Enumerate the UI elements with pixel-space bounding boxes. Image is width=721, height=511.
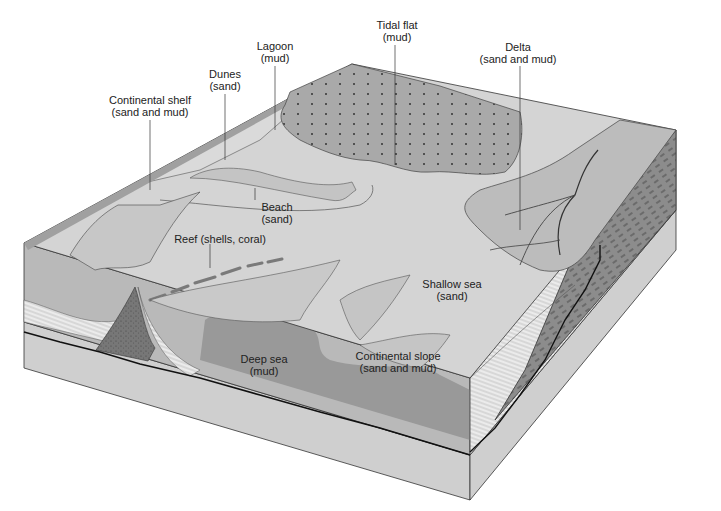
- label-shallow-sea: Shallow sea (sand): [422, 278, 481, 302]
- label-lagoon: Lagoon (mud): [257, 40, 294, 64]
- label-tidal-flat: Tidal flat (mud): [376, 19, 417, 43]
- label-deep-sea: Deep sea (mud): [240, 353, 287, 377]
- label-continental-shelf: Continental shelf (sand and mud): [109, 94, 191, 118]
- label-delta: Delta (sand and mud): [479, 41, 556, 65]
- label-beach: Beach (sand): [261, 201, 292, 225]
- label-continental-slope: Continental slope (sand and mud): [355, 350, 440, 374]
- label-dunes: Dunes (sand): [209, 68, 241, 92]
- block-diagram-svg: [0, 0, 721, 511]
- label-reef: Reef (shells, coral): [174, 233, 266, 245]
- block-diagram: Continental shelf (sand and mud) Dunes (…: [0, 0, 721, 511]
